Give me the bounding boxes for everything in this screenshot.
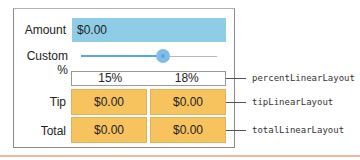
- slider-track-fill: [81, 55, 163, 57]
- percent-annotation: percentLinearLayout: [252, 73, 355, 83]
- total-linear-layout: $0.00 $0.00: [71, 117, 226, 143]
- total-custom-value: $0.00: [150, 117, 226, 143]
- total-label: Total: [20, 124, 66, 138]
- percent-15-label: 15%: [72, 72, 149, 85]
- total-annotation: totalLinearLayout: [252, 125, 344, 135]
- percent-custom-label: 18%: [149, 72, 226, 85]
- custom-percent-label: Custom %: [16, 49, 68, 77]
- custom-percent-slider[interactable]: [81, 50, 217, 62]
- bottom-divider: [0, 155, 360, 157]
- tip-linear-layout: $0.00 $0.00: [71, 89, 226, 115]
- total-15-value: $0.00: [71, 117, 147, 143]
- total-connector-line: [226, 130, 246, 131]
- tip-label: Tip: [20, 95, 66, 109]
- amount-field[interactable]: $0.00: [72, 18, 226, 42]
- tip-custom-value: $0.00: [150, 89, 226, 115]
- amount-label: Amount: [20, 23, 66, 37]
- tip-connector-line: [226, 102, 246, 103]
- slider-thumb[interactable]: [156, 49, 170, 63]
- slider-track: [163, 56, 217, 57]
- tip-annotation: tipLinearLayout: [252, 97, 333, 107]
- percent-linear-layout: 15% 18%: [71, 71, 226, 86]
- tip-15-value: $0.00: [71, 89, 147, 115]
- percent-connector-line: [226, 78, 246, 79]
